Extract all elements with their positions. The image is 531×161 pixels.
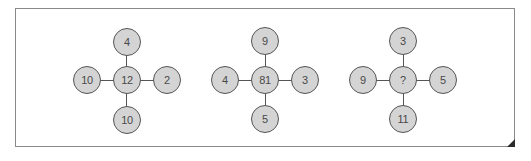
node-value: 81 <box>259 74 271 86</box>
node-top: 4 <box>113 28 141 56</box>
node-center: 81 <box>251 66 279 94</box>
node-center: 12 <box>113 66 141 94</box>
node-value: 3 <box>302 74 308 86</box>
node-value: 5 <box>262 113 268 125</box>
node-top: 3 <box>389 27 417 55</box>
node-value: 11 <box>398 113 409 125</box>
node-value: 2 <box>164 74 170 86</box>
puzzle-area: 4 10 12 2 10 9 4 81 3 5 3 9 ? 5 11 <box>0 0 531 161</box>
node-left: 10 <box>73 66 101 94</box>
node-right: 5 <box>429 66 457 94</box>
node-right: 2 <box>153 66 181 94</box>
node-value: 3 <box>400 35 406 47</box>
node-value: 9 <box>360 74 366 86</box>
node-left: 9 <box>349 66 377 94</box>
node-bottom: 11 <box>389 105 417 133</box>
node-left: 4 <box>211 66 239 94</box>
node-value: 10 <box>81 74 93 86</box>
node-right: 3 <box>291 66 319 94</box>
node-value: 5 <box>440 74 446 86</box>
node-top: 9 <box>251 27 279 55</box>
node-center-unknown: ? <box>389 66 417 94</box>
node-value: 12 <box>121 74 133 86</box>
node-bottom: 5 <box>251 105 279 133</box>
node-bottom: 10 <box>113 106 141 134</box>
node-value: 4 <box>124 36 130 48</box>
node-value: ? <box>400 74 406 86</box>
node-value: 9 <box>262 35 268 47</box>
node-value: 10 <box>121 114 133 126</box>
node-value: 4 <box>222 74 228 86</box>
